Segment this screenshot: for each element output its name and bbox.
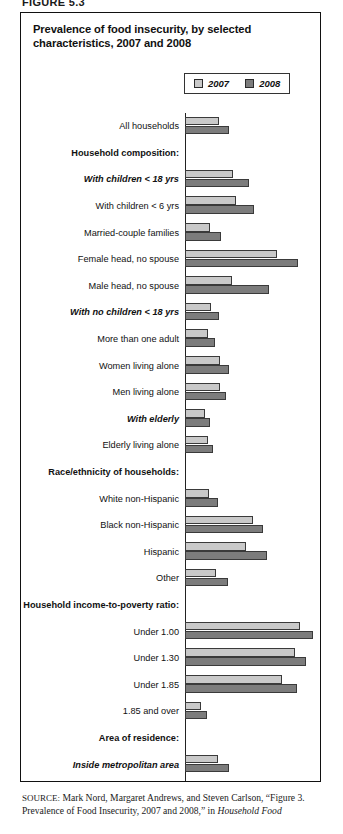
bar-2007 bbox=[185, 276, 232, 285]
bar-2007 bbox=[185, 702, 201, 711]
row-label: Elderly living alone bbox=[21, 440, 185, 450]
row-bars bbox=[185, 406, 321, 433]
chart-row: Elderly living alone bbox=[21, 432, 321, 459]
row-bars bbox=[185, 193, 321, 220]
chart-row: Married-couple families bbox=[21, 219, 321, 246]
row-bars bbox=[185, 778, 321, 782]
row-bars bbox=[185, 246, 321, 273]
row-bars bbox=[185, 219, 321, 246]
row-label: Women living alone bbox=[21, 361, 185, 371]
row-bars bbox=[185, 326, 321, 353]
bar-2008 bbox=[185, 259, 298, 268]
bar-2007 bbox=[185, 516, 253, 525]
bar-2007 bbox=[185, 356, 220, 365]
row-label: Men living alone bbox=[21, 387, 185, 397]
row-bars bbox=[185, 645, 321, 672]
row-label: 1.85 and over bbox=[21, 706, 185, 716]
row-bars bbox=[185, 352, 321, 379]
figure-number: FIGURE 5.3 bbox=[22, 0, 85, 8]
legend-item-2008: 2008 bbox=[245, 78, 280, 89]
bar-2007 bbox=[185, 436, 208, 445]
legend-label-2007: 2007 bbox=[208, 78, 229, 89]
figure-box: Prevalence of food insecurity, by select… bbox=[20, 12, 321, 782]
row-label: Under 1.30 bbox=[21, 653, 185, 663]
chart-row: With no children < 18 yrs bbox=[21, 299, 321, 326]
row-bars bbox=[185, 565, 321, 592]
row-bars bbox=[185, 273, 321, 300]
bar-2008 bbox=[185, 285, 269, 294]
chart-row: With children < 18 yrs bbox=[21, 166, 321, 193]
row-bars bbox=[185, 140, 321, 167]
chart-row: Area of residence: bbox=[21, 725, 321, 752]
row-label: With children < 6 yrs bbox=[21, 201, 185, 211]
bar-2008 bbox=[185, 498, 218, 507]
row-label: With children < 18 yrs bbox=[21, 174, 185, 184]
chart-row: Under 1.85 bbox=[21, 671, 321, 698]
bar-2008 bbox=[185, 418, 210, 427]
chart-legend: 2007 2008 bbox=[184, 73, 290, 94]
row-label: Hispanic bbox=[21, 547, 185, 557]
row-label: White non-Hispanic bbox=[21, 494, 185, 504]
row-label: Race/ethnicity of households: bbox=[21, 467, 185, 477]
source-note: SOURCE: Mark Nord, Margaret Andrews, and… bbox=[22, 792, 327, 817]
bar-2007 bbox=[185, 303, 211, 312]
row-bars bbox=[185, 592, 321, 619]
row-bars bbox=[185, 671, 321, 698]
chart-row: Men living alone bbox=[21, 379, 321, 406]
bar-2007 bbox=[185, 117, 219, 126]
row-label: All households bbox=[21, 121, 185, 131]
legend-item-2007: 2007 bbox=[194, 78, 229, 89]
source-prefix: SOURCE: bbox=[22, 793, 60, 803]
row-bars bbox=[185, 113, 321, 140]
chart-row: Under 1.30 bbox=[21, 645, 321, 672]
bar-2008 bbox=[185, 764, 229, 773]
bar-2007 bbox=[185, 170, 233, 179]
bar-2007 bbox=[185, 409, 205, 418]
bar-2008 bbox=[185, 205, 254, 214]
bar-2008 bbox=[185, 365, 229, 374]
bar-2008 bbox=[185, 657, 306, 666]
bar-rows: All householdsHousehold composition:With… bbox=[21, 113, 321, 782]
bar-2008 bbox=[185, 551, 267, 560]
bar-2007 bbox=[185, 223, 210, 232]
chart-row: Women living alone bbox=[21, 352, 321, 379]
bar-2008 bbox=[185, 684, 297, 693]
bar-2008 bbox=[185, 338, 215, 347]
row-bars bbox=[185, 432, 321, 459]
row-bars bbox=[185, 512, 321, 539]
bar-2008 bbox=[185, 525, 263, 534]
row-bars bbox=[185, 299, 321, 326]
legend-swatch-2008 bbox=[245, 79, 254, 88]
row-bars bbox=[185, 751, 321, 778]
source-italic: Household Food bbox=[217, 805, 281, 816]
row-bars bbox=[185, 485, 321, 512]
row-bars bbox=[185, 698, 321, 725]
bar-2007 bbox=[185, 542, 246, 551]
row-label: Under 1.00 bbox=[21, 627, 185, 637]
chart-row: With children < 6 yrs bbox=[21, 193, 321, 220]
legend-label-2008: 2008 bbox=[259, 78, 280, 89]
row-bars bbox=[185, 539, 321, 566]
row-bars bbox=[185, 725, 321, 752]
chart-row: Inside metropolitan area bbox=[21, 751, 321, 778]
row-bars bbox=[185, 618, 321, 645]
chart-row: Other bbox=[21, 565, 321, 592]
bar-2007 bbox=[185, 622, 300, 631]
bar-2008 bbox=[185, 711, 207, 720]
bar-2007 bbox=[185, 489, 209, 498]
chart-row: Household composition: bbox=[21, 140, 321, 167]
chart-row: More than one adult bbox=[21, 326, 321, 353]
chart-row: Under 1.00 bbox=[21, 618, 321, 645]
row-label: Black non-Hispanic bbox=[21, 520, 185, 530]
bar-2008 bbox=[185, 126, 229, 135]
chart-row: 1.85 and over bbox=[21, 698, 321, 725]
row-label: Inside metropolitan area bbox=[21, 760, 185, 770]
bar-2008 bbox=[185, 179, 249, 188]
bar-2008 bbox=[185, 445, 213, 454]
bar-2007 bbox=[185, 383, 220, 392]
row-label: Under 1.85 bbox=[21, 680, 185, 690]
row-bars bbox=[185, 459, 321, 486]
bar-2007 bbox=[185, 250, 277, 259]
chart-row: All households bbox=[21, 113, 321, 140]
chart-row: Household income-to-poverty ratio: bbox=[21, 592, 321, 619]
